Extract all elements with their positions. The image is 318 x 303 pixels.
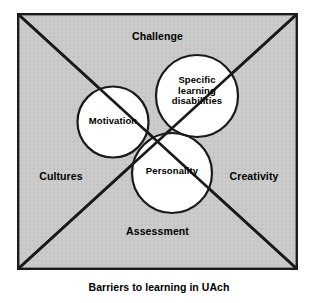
quadrant-label-challenge: Challenge	[17, 31, 298, 43]
circle-label-specific-learning-disabilities: Specific learning disabilities	[156, 75, 238, 107]
quadrant-label-assessment: Assessment	[17, 226, 298, 238]
figure-caption: Barriers to learning in UAch	[0, 281, 318, 293]
circle-label-personality: Personality	[130, 166, 214, 177]
quadrant-label-cultures: Cultures	[19, 171, 103, 183]
quadrant-label-creativity: Creativity	[212, 171, 296, 183]
figure-container: Challenge Cultures Creativity Assessment…	[0, 0, 318, 303]
circle-label-motivation: Motivation	[73, 116, 153, 127]
diagram-square: Challenge Cultures Creativity Assessment…	[17, 13, 298, 270]
